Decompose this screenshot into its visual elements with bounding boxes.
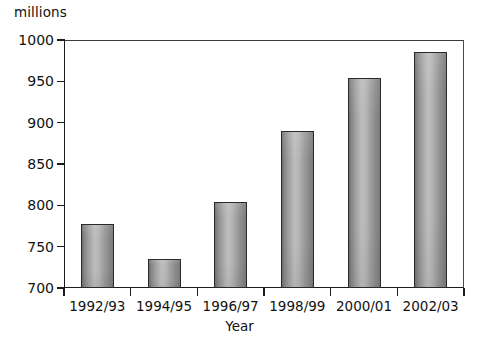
- y-axis-tick-label: 850: [0, 156, 54, 172]
- y-axis-tick-label: 750: [0, 239, 54, 255]
- x-axis-tick-label: 2000/01: [336, 298, 392, 314]
- x-axis-tick: [263, 288, 264, 296]
- y-axis-tick: [57, 163, 65, 165]
- x-axis-tick-label: 1992/93: [69, 298, 125, 314]
- x-axis-tick: [63, 288, 64, 296]
- bar-1996-97: [214, 202, 247, 288]
- y-axis-tick-label: 900: [0, 115, 54, 131]
- x-axis-tick-label: 1998/99: [269, 298, 325, 314]
- y-axis-tick: [57, 205, 65, 207]
- y-axis-tick-label: 1000: [0, 32, 54, 48]
- bar-chart: millions 7007508008509009501000 1992/931…: [0, 0, 479, 340]
- y-axis-tick-label: 700: [0, 280, 54, 296]
- x-axis-tick: [397, 288, 398, 296]
- bar-2002-03: [414, 52, 447, 288]
- x-axis-tick: [330, 288, 331, 296]
- x-axis-tick: [463, 288, 464, 296]
- y-axis-tick: [57, 39, 65, 41]
- y-axis-tick-label: 800: [0, 197, 54, 213]
- bar-2000-01: [348, 78, 381, 288]
- bar-1994-95: [148, 259, 181, 288]
- plot-area-frame: [64, 40, 464, 288]
- x-axis-tick: [197, 288, 198, 296]
- x-axis-tick-label: 1996/97: [203, 298, 259, 314]
- y-axis-unit-label: millions: [14, 4, 67, 20]
- bar-1998-99: [281, 131, 314, 288]
- y-axis-tick: [57, 246, 65, 248]
- y-axis-tick: [57, 122, 65, 124]
- y-axis-tick: [57, 81, 65, 83]
- bar-1992-93: [81, 224, 114, 288]
- x-axis-tick: [130, 288, 131, 296]
- x-axis-title: Year: [0, 318, 479, 334]
- y-axis-tick-label: 950: [0, 73, 54, 89]
- x-axis-tick-label: 1994/95: [136, 298, 192, 314]
- x-axis-tick-label: 2002/03: [403, 298, 459, 314]
